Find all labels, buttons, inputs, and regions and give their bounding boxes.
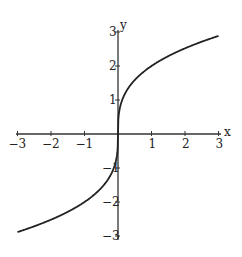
x-tick-label: −3 (9, 137, 27, 151)
x-tick-label: 3 (216, 137, 224, 151)
x-tick-label: −1 (76, 137, 94, 151)
x-tick-label: −2 (42, 137, 60, 151)
function-plot: −3−2−1123−3−2−1123 x y (0, 0, 242, 257)
y-tick-label: 1 (109, 93, 117, 107)
y-tick-label: 3 (109, 25, 117, 39)
y-tick-label: 2 (109, 59, 117, 73)
x-axis-label: x (224, 125, 231, 139)
x-tick-label: 1 (149, 137, 157, 151)
y-axis-label: y (119, 18, 127, 32)
y-tick-label: −3 (102, 229, 120, 243)
x-tick-label: 2 (182, 137, 190, 151)
y-tick-label: −2 (102, 195, 120, 209)
